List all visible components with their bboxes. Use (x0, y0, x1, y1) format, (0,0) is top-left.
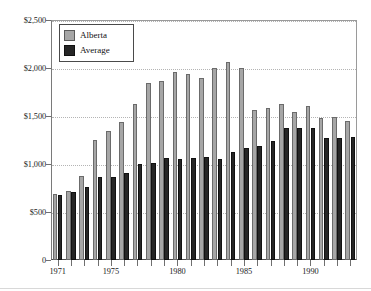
bar-average (111, 177, 116, 260)
bar-alberta (79, 176, 84, 260)
bar-alberta (239, 68, 244, 260)
bar-group (239, 20, 249, 260)
x-axis-tick-mark (231, 260, 232, 266)
bar-alberta (332, 117, 337, 260)
bar-alberta (93, 140, 98, 260)
x-axis-tick-mark (284, 260, 285, 266)
bar-average (151, 163, 156, 260)
y-axis-tick-label: $500 (2, 208, 46, 217)
bar-group (266, 20, 276, 260)
x-axis-tick-label: 1985 (236, 267, 252, 276)
bar-average (124, 173, 129, 260)
x-axis-tick-mark (98, 260, 99, 266)
bar-alberta (266, 108, 271, 260)
bar-group (146, 20, 156, 260)
legend-item-alberta: Alberta (64, 28, 129, 43)
x-axis-tick-mark (71, 260, 72, 266)
y-axis-tick-label: $1,500 (2, 112, 46, 121)
x-axis-tick-mark (204, 260, 205, 266)
bar-alberta (306, 106, 311, 260)
bar-average (191, 158, 196, 260)
bar-alberta (53, 194, 58, 260)
bar-average (244, 148, 249, 260)
bar-average (311, 128, 316, 260)
page-bottom-rule (0, 288, 371, 289)
bar-alberta (279, 104, 284, 260)
x-axis-tick-label: 1990 (302, 267, 318, 276)
x-axis-tick-mark (164, 260, 165, 266)
bar-group (186, 20, 196, 260)
bar-group (345, 20, 355, 260)
x-axis-tick-label: 1971 (50, 267, 66, 276)
chart-legend: Alberta Average (59, 24, 134, 62)
legend-swatch-alberta (64, 30, 75, 41)
x-axis-tick-mark (177, 260, 178, 266)
bar-average (337, 138, 342, 260)
y-axis: 0$500$1,000$1,500$2,000$2,500 (0, 0, 46, 291)
chart-figure: 0$500$1,000$1,500$2,000$2,500 1971197519… (0, 0, 371, 291)
legend-label-alberta: Alberta (80, 30, 107, 41)
bar-average (178, 159, 183, 260)
bar-average (297, 128, 302, 260)
x-axis-tick-mark (58, 260, 59, 266)
x-axis-tick-label: 1980 (169, 267, 185, 276)
x-axis-tick-mark (84, 260, 85, 266)
x-axis-tick-mark (124, 260, 125, 266)
bar-group (319, 20, 329, 260)
x-axis-tick-mark (137, 260, 138, 266)
bar-average (58, 195, 63, 260)
y-axis-tick-label: $2,000 (2, 64, 46, 73)
bar-group (332, 20, 342, 260)
x-axis-tick-mark (310, 260, 311, 266)
bar-group (133, 20, 143, 260)
bar-alberta (173, 72, 178, 260)
bar-average (218, 159, 223, 260)
bar-average (231, 152, 236, 260)
bar-group (292, 20, 302, 260)
bar-group (173, 20, 183, 260)
bar-average (257, 146, 262, 260)
x-axis-tick-mark (337, 260, 338, 266)
bar-alberta (146, 83, 151, 260)
bar-alberta (133, 104, 138, 260)
bar-average (98, 177, 103, 260)
x-axis: 19711975198019851990 (51, 260, 357, 291)
y-axis-tick-label: $1,000 (2, 160, 46, 169)
x-axis-tick-mark (217, 260, 218, 266)
bar-group (279, 20, 289, 260)
x-axis-tick-mark (271, 260, 272, 266)
bar-alberta (199, 78, 204, 260)
bar-average (164, 158, 169, 260)
bar-average (284, 128, 289, 260)
bar-group (159, 20, 169, 260)
x-axis-tick-mark (151, 260, 152, 266)
bar-average (324, 138, 329, 260)
legend-label-average: Average (80, 45, 110, 56)
bar-group (199, 20, 209, 260)
x-axis-tick-mark (297, 260, 298, 266)
bar-average (204, 157, 209, 260)
bar-alberta (186, 74, 191, 260)
x-axis-tick-mark (257, 260, 258, 266)
bar-group (252, 20, 262, 260)
bar-alberta (226, 62, 231, 260)
bar-average (85, 187, 90, 260)
y-axis-tick-label: 0 (2, 256, 46, 265)
bar-group (212, 20, 222, 260)
bar-alberta (66, 191, 71, 260)
y-axis-tick-label: $2,500 (2, 16, 46, 25)
legend-swatch-average (64, 45, 75, 56)
bar-alberta (212, 68, 217, 260)
bar-group (306, 20, 316, 260)
x-axis-tick-mark (191, 260, 192, 266)
x-axis-tick-mark (244, 260, 245, 266)
bar-alberta (119, 122, 124, 260)
bar-alberta (345, 121, 350, 260)
legend-item-average: Average (64, 43, 129, 58)
bar-alberta (292, 112, 297, 260)
bar-group (226, 20, 236, 260)
bar-alberta (159, 81, 164, 260)
bar-average (271, 141, 276, 260)
x-axis-tick-mark (111, 260, 112, 266)
x-axis-tick-mark (324, 260, 325, 266)
